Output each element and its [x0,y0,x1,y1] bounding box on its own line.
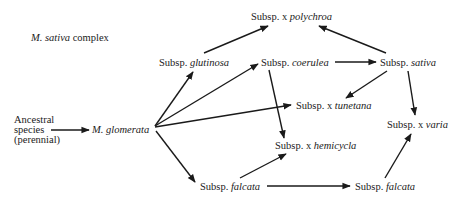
edge-falcata-left-to-hemicycla [240,154,286,178]
node-subsp-x-tunetana: Subsp. x tunetana [296,100,372,111]
coerulea-name: coerulea [292,57,329,68]
hemicycla-name: hemicycla [314,140,357,151]
falcata-left-name: falcata [231,181,260,192]
falcata-right-name: falcata [386,181,415,192]
falcata-left-prefix: Subsp. [200,181,231,192]
edge-glomerata-to-falcata-left [156,131,195,182]
falcata-right-prefix: Subsp. [355,181,386,192]
glomerata-name: M. glomerata [92,124,149,135]
node-subsp-falcata-left: Subsp. falcata [200,181,260,192]
tunetana-prefix: Subsp. x [296,100,335,111]
edges-layer [0,0,465,202]
node-subsp-falcata-right: Subsp. falcata [355,181,415,192]
medicago-sativa-complex-diagram: M. sativa complex Ancestral species (per… [0,0,465,202]
node-subsp-glutinosa: Subsp. glutinosa [159,57,229,68]
node-m-glomerata: M. glomerata [92,124,149,135]
edge-glomerata-to-coerulea [155,64,258,126]
varia-name: varia [426,119,448,130]
node-subsp-coerulea: Subsp. coerulea [261,57,329,68]
edge-glutinosa-to-polychroa [204,26,268,53]
edge-sativa-to-tunetana [346,71,387,98]
edge-sativa-to-polychroa [319,26,386,53]
coerulea-prefix: Subsp. [261,57,292,68]
node-subsp-x-varia: Subsp. x varia [387,119,448,130]
ancestral-line3: (perennial) [14,135,64,145]
edge-glomerata-to-glutinosa [155,72,193,126]
glutinosa-prefix: Subsp. [159,57,190,68]
title-suffix: complex [70,32,109,43]
edge-coerulea-to-hemicycla [269,70,284,138]
polychroa-prefix: Subsp. x [251,11,290,22]
polychroa-name: polychroa [290,11,332,22]
edge-falcata-right-to-varia [385,134,411,178]
edge-sativa-to-varia [408,71,415,115]
hemicycla-prefix: Subsp. x [275,140,314,151]
sativa-prefix: Subsp. [380,57,411,68]
node-subsp-x-hemicycla: Subsp. x hemicycla [275,140,356,151]
edge-glomerata-to-tunetana [155,105,291,127]
title-species: M. sativa [31,32,70,43]
diagram-title: M. sativa complex [31,32,109,43]
node-subsp-x-polychroa: Subsp. x polychroa [251,11,332,22]
node-ancestral-species: Ancestral species (perennial) [14,115,64,145]
node-subsp-sativa: Subsp. sativa [380,57,436,68]
varia-prefix: Subsp. x [387,119,426,130]
sativa-name: sativa [411,57,436,68]
glutinosa-name: glutinosa [190,57,229,68]
tunetana-name: tunetana [335,100,372,111]
